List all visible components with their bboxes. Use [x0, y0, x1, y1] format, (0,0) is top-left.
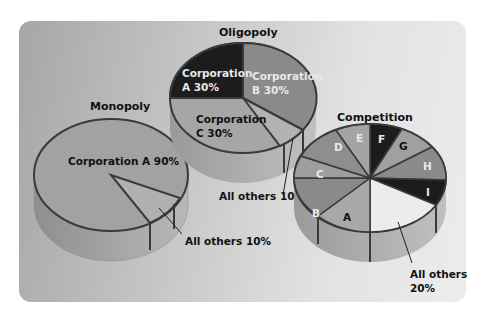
competition-label-e: E [356, 132, 363, 144]
monopoly-others-label: All others 10% [185, 235, 272, 247]
oligopoly-corp-c-line2: C 30% [196, 127, 233, 139]
competition-label-a: A [343, 211, 352, 223]
oligopoly-corp-a-line1: Corporation [182, 67, 252, 79]
oligopoly-title: Oligopoly [219, 26, 278, 39]
oligopoly-corp-b-line1: Corporation [252, 70, 322, 82]
competition-title: Competition [337, 111, 413, 124]
monopoly-corp-a-label: Corporation A 90% [68, 155, 179, 167]
competition-others-line2: 20% [410, 282, 436, 294]
monopoly-pie [34, 119, 188, 261]
competition-label-g: G [399, 140, 408, 152]
oligopoly-corp-a-line2: A 30% [182, 81, 219, 93]
competition-label-d: D [334, 141, 343, 153]
oligopoly-corp-c-line1: Corporation [196, 113, 266, 125]
competition-others-line1: All others [410, 268, 467, 280]
competition-label-f: F [378, 133, 385, 145]
competition-label-c: C [316, 168, 324, 180]
oligopoly-corp-b-line2: B 30% [252, 84, 289, 96]
competition-label-b: B [312, 207, 320, 219]
competition-pie [294, 124, 446, 263]
monopoly-title: Monopoly [90, 100, 150, 113]
competition-label-i: I [426, 186, 430, 198]
competition-label-h: H [423, 160, 432, 172]
oligopoly-others-label: All others 10% [219, 190, 306, 202]
pie-charts: Monopoly Corporation A 90% All others 10… [0, 0, 483, 314]
